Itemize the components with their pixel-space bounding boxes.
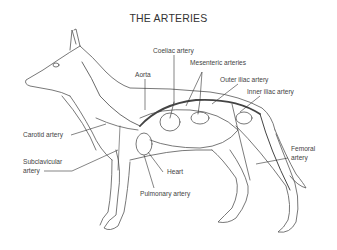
label-aorta: Aorta: [135, 71, 151, 79]
leader-lines: [44, 55, 288, 188]
label-subclavicular-artery-line2: artery: [23, 167, 40, 175]
label-subclavicular-artery-line1: Subclavicular: [23, 158, 62, 166]
label-outer-iliac-artery: Outer iliac artery: [220, 76, 268, 84]
label-mesenteric-arteries: Mesenteric arteries: [190, 59, 246, 67]
label-heart: Heart: [167, 168, 183, 176]
label-coeliac-artery: Coeliac artery: [153, 47, 194, 55]
label-femoral-artery-line2: artery: [291, 154, 308, 162]
label-femoral-artery-line1: Femoral: [291, 145, 315, 153]
label-carotid-artery: Carotid artery: [23, 131, 63, 139]
dog-artery-illustration: [0, 0, 337, 250]
label-pulmonary-artery: Pulmonary artery: [140, 190, 190, 198]
label-inner-iliac-artery: Inner iliac artery: [247, 88, 294, 96]
dog-outline: [26, 29, 307, 232]
